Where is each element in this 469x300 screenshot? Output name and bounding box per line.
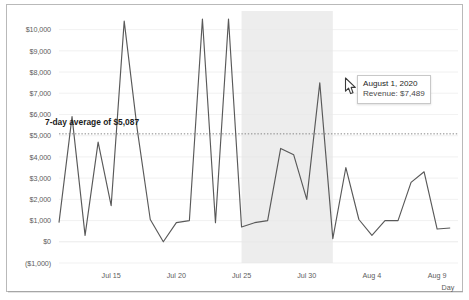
x-axis-tick: Jul 15 (91, 271, 131, 280)
data-point-tooltip: August 1, 2020 Revenue: $7,489 (357, 75, 431, 104)
x-axis-tick: Jul 30 (287, 271, 327, 280)
mouse-pointer-icon (344, 77, 358, 96)
x-axis-tick: Jul 25 (222, 271, 262, 280)
x-axis-title: Day (433, 283, 463, 292)
x-axis-tick: Aug 4 (352, 271, 392, 280)
x-axis-tick: Aug 9 (417, 271, 457, 280)
tooltip-revenue-label: Revenue: (363, 89, 398, 98)
y-axis-tick: $1,000 (0, 216, 51, 225)
y-axis-tick: $6,000 (0, 110, 51, 119)
tooltip-revenue-value: $7,489 (400, 89, 425, 98)
y-axis-tick: $4,000 (0, 153, 51, 162)
tooltip-revenue-row: Revenue: $7,489 (363, 89, 425, 99)
y-axis-tick: $3,000 (0, 174, 51, 183)
tooltip-title: August 1, 2020 (363, 79, 425, 89)
chart-frame: $10,000$9,000$8,000$7,000$6,000$5,000$4,… (6, 4, 463, 292)
revenue-line-chart[interactable] (7, 5, 464, 293)
x-axis-tick: Jul 20 (156, 271, 196, 280)
y-axis-tick: $0 (0, 237, 51, 246)
y-axis-tick: $2,000 (0, 195, 51, 204)
highlight-band (242, 11, 333, 263)
y-axis-tick: $7,000 (0, 89, 51, 98)
y-axis-tick: ($1,000) (0, 259, 51, 268)
average-line-label: 7-day average of $5,087 (45, 117, 139, 127)
y-axis-tick: $8,000 (0, 68, 51, 77)
y-axis-tick: $10,000 (0, 25, 51, 34)
y-axis-tick: $5,000 (0, 131, 51, 140)
y-axis-tick: $9,000 (0, 47, 51, 56)
